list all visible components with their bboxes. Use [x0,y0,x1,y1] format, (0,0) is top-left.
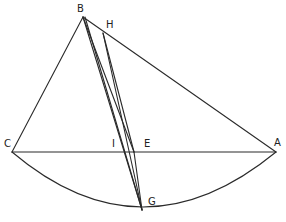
label-point-H: H [106,19,114,30]
segment-BC [12,17,83,152]
segment-B-E [83,17,134,152]
segment-HG [103,33,142,210]
label-point-B: B [77,3,84,14]
label-point-E: E [144,138,150,149]
label-point-G: G [148,196,156,207]
label-point-I: I [112,138,115,149]
arc-CGA [12,152,276,207]
segment-BA [83,17,276,152]
label-point-A: A [274,137,281,148]
geometry-diagram: B H C I E A G [0,0,286,222]
label-point-C: C [4,138,11,149]
